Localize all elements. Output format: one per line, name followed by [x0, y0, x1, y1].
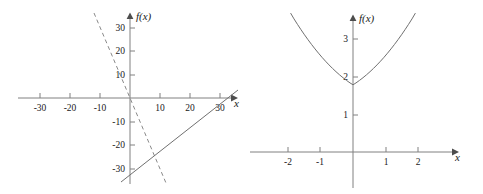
plot-panel-right: -2 -1 1 2 1 2 3 x f(x) — [242, 0, 483, 194]
right-xtick-label-2: 2 — [416, 157, 421, 167]
left-y-axis-arrowhead — [127, 13, 134, 20]
right-y-axis-label: f(x) — [359, 12, 375, 25]
left-x-axis-label: x — [233, 97, 239, 109]
left-ytick-label-30: 30 — [116, 23, 126, 33]
left-y-axis-label: f(x) — [136, 10, 152, 23]
right-ytick-label-1: 1 — [343, 110, 348, 120]
left-ytick-label--30: -30 — [112, 164, 125, 174]
right-ytick-label-3: 3 — [343, 34, 348, 44]
left-xtick-label-20: 20 — [185, 103, 195, 113]
left-xtick-label--20: -20 — [64, 103, 77, 113]
left-plot-svg: -30 -20 -10 10 20 30 30 20 10 -10 -20 -3… — [0, 0, 242, 194]
figure-root: -30 -20 -10 10 20 30 30 20 10 -10 -20 -3… — [0, 0, 483, 194]
left-xtick-label--30: -30 — [34, 103, 47, 113]
right-xtick-label--1: -1 — [316, 157, 324, 167]
left-xtick-label-10: 10 — [155, 103, 165, 113]
right-xtick-label--2: -2 — [284, 157, 292, 167]
plot-panel-left: -30 -20 -10 10 20 30 30 20 10 -10 -20 -3… — [0, 0, 242, 194]
left-xtick-label--10: -10 — [94, 103, 107, 113]
right-plot-svg: -2 -1 1 2 1 2 3 x f(x) — [242, 0, 483, 194]
right-x-axis-label: x — [454, 151, 460, 163]
right-xtick-label-1: 1 — [384, 157, 389, 167]
left-ytick-label--10: -10 — [112, 117, 125, 127]
left-ytick-label-20: 20 — [116, 46, 126, 56]
right-y-axis-arrowhead — [350, 15, 357, 22]
left-solid-line — [121, 90, 238, 182]
left-ytick-label--20: -20 — [112, 140, 125, 150]
